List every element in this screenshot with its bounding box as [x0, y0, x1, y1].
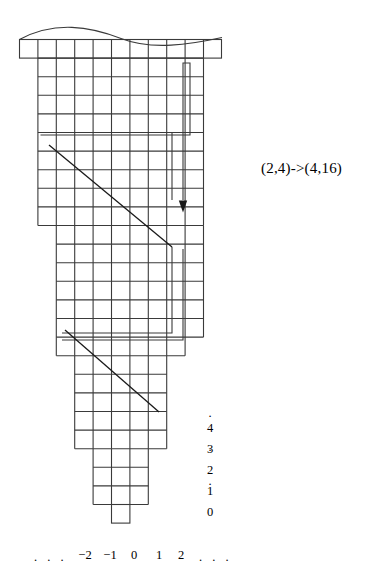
y-axis-tick-4: 4: [203, 422, 217, 435]
x-axis-tick-1: 1: [152, 549, 166, 562]
y-axis-tick-1: 1: [203, 485, 217, 498]
tier-2-grid: [56, 226, 203, 338]
diagonal-line-upper: [49, 145, 172, 247]
grid-diagram-svg: [0, 0, 366, 583]
figure-root: (2,4)->(4,16) . . . 4 3 2 1 0 . . . −2 −…: [0, 0, 366, 583]
snake-path-lower: [62, 247, 183, 340]
x-axis-tick-minus2: −2: [76, 549, 94, 562]
x-axis-tick-2: 2: [174, 549, 188, 562]
snake-path-upper: [41, 63, 191, 200]
x-axis-right-ellipsis: . . .: [199, 551, 232, 564]
y-axis-ellipsis-dot: .: [203, 409, 217, 418]
y-axis-tick-3: 3: [203, 443, 217, 456]
y-axis-tick-2: 2: [203, 464, 217, 477]
tier-1-grid: [38, 58, 204, 225]
x-axis-left-ellipsis: . . .: [34, 551, 67, 564]
tier-top-cap: [20, 40, 222, 59]
y-axis-tick-0: 0: [203, 506, 217, 519]
tier-5-grid: [93, 449, 148, 505]
x-axis-tick-0: 0: [127, 549, 141, 562]
x-axis-tick-minus1: −1: [101, 549, 119, 562]
wavy-top-edge: [20, 27, 223, 45]
annotation-label: (2,4)->(4,16): [261, 161, 342, 176]
tier-4-grid: [75, 356, 167, 449]
tier-6-grid: [112, 505, 130, 524]
